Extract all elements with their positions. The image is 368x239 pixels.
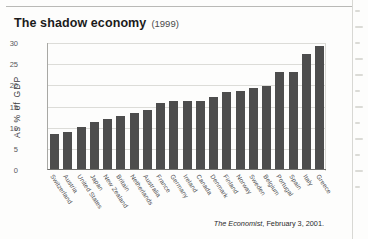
bar (236, 91, 245, 169)
x-tick-label: Greece (315, 173, 333, 195)
y-tick-label: 30 (0, 39, 18, 48)
y-tick-label: 0 (0, 166, 18, 175)
bar (116, 116, 125, 169)
plot-area (47, 43, 326, 170)
margin-text-line (355, 106, 363, 108)
chart-title-year: (1999) (151, 18, 178, 29)
chart-source: The Economist, February 3, 2001. (214, 219, 324, 228)
bar (156, 103, 165, 169)
bar (302, 54, 311, 169)
margin-text-line (355, 122, 360, 124)
bar (50, 134, 59, 169)
bar (143, 110, 152, 169)
bar (222, 92, 231, 169)
margin-text-line (355, 90, 360, 92)
page-column-divider (352, 0, 353, 239)
source-publication: The Economist (214, 219, 263, 228)
bar (103, 119, 112, 169)
bar (196, 101, 205, 169)
x-tick-slot: Austria (62, 172, 71, 230)
bar (289, 72, 298, 169)
bar (63, 132, 72, 169)
x-tick-slot: New Zealand (102, 172, 111, 230)
x-tick-label: Italy (302, 173, 315, 187)
bar (90, 122, 99, 169)
chart-title-row: The shadow economy (1999) (14, 16, 179, 30)
adjacent-column-text (355, 10, 367, 225)
x-tick-slot: United States (76, 172, 85, 230)
x-tick-slot: Switzerland (49, 172, 58, 230)
bar (262, 86, 271, 169)
bar-series (48, 43, 326, 169)
bar (77, 127, 86, 169)
margin-text-line (355, 42, 360, 44)
margin-text-line (355, 58, 363, 60)
y-tick-label: 10 (0, 124, 18, 133)
margin-text-line (355, 154, 360, 156)
x-tick-slot: Australia (142, 172, 151, 230)
bar (249, 88, 258, 169)
x-tick-slot: France (155, 172, 164, 230)
bar (183, 101, 192, 169)
x-tick-slot: Canada (195, 172, 204, 230)
x-tick-slot: Britain (115, 172, 124, 230)
bar (315, 46, 324, 169)
x-tick-slot: Netherlands (129, 172, 138, 230)
margin-text-line (355, 10, 360, 12)
chart-title: The shadow economy (14, 16, 146, 30)
bar (169, 101, 178, 169)
margin-text-line (355, 186, 360, 188)
y-tick-label: 20 (0, 81, 18, 90)
x-tick-slot: Ireland (182, 172, 191, 230)
margin-text-line (355, 138, 363, 140)
margin-text-line (355, 26, 363, 28)
margin-text-line (355, 170, 363, 172)
chart-figure: The shadow economy (1999) As % of GDP 05… (0, 0, 352, 239)
y-tick-label: 5 (0, 145, 18, 154)
bar (275, 72, 284, 169)
y-tick-label: 25 (0, 60, 18, 69)
bar (130, 113, 139, 169)
source-rest: , February 3, 2001. (262, 219, 324, 228)
y-tick-label: 15 (0, 103, 18, 112)
x-tick-slot: Germany (169, 172, 178, 230)
margin-text-line (355, 74, 363, 76)
page-background: The shadow economy (1999) As % of GDP 05… (0, 0, 368, 239)
bar (209, 97, 218, 169)
x-tick-slot: Japan (89, 172, 98, 230)
